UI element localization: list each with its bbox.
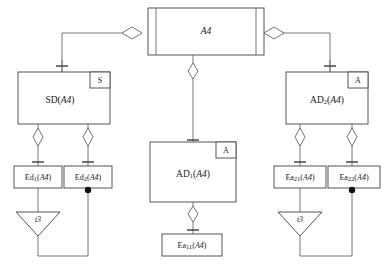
node-ea22[interactable]: Ea22(A4) bbox=[328, 162, 380, 193]
ad2-label-sub: 2 bbox=[324, 98, 327, 105]
edge-root-to-sd bbox=[62, 33, 122, 72]
node-ad2[interactable]: A AD2(A4) bbox=[286, 60, 368, 124]
node-triangle-right[interactable]: t3 bbox=[278, 212, 322, 236]
ea21-label: Ea21(A4) bbox=[285, 173, 315, 183]
ad2-badge-label: A bbox=[355, 76, 361, 85]
ad2-label: AD2(A4) bbox=[310, 95, 344, 106]
node-ed2[interactable]: Ed2(A4) bbox=[64, 162, 112, 193]
ea21-label-arg: A4 bbox=[302, 173, 312, 182]
sd-label: SD(A4) bbox=[45, 95, 74, 106]
diamond-root-left bbox=[122, 27, 142, 39]
ea22-label: Ea22(A4) bbox=[339, 173, 369, 183]
ad1-label: AD1(A4) bbox=[176, 169, 210, 180]
ad1-label-prefix: AD bbox=[176, 169, 190, 179]
diamond-ad1-bottom bbox=[188, 206, 198, 222]
ed2-label-arg: A4 bbox=[89, 173, 99, 182]
ad1-badge-label: A bbox=[223, 146, 229, 155]
diamond-root-bottom bbox=[188, 63, 198, 79]
ed2-label-sub: 2 bbox=[84, 175, 87, 182]
ea21-label-sub: 21 bbox=[294, 175, 301, 182]
diagram-canvas: A4 S SD(A4) A AD1(A4) bbox=[0, 0, 386, 269]
triangle-right-label: t3 bbox=[297, 215, 303, 224]
ed2-label-prefix: Ed bbox=[75, 173, 84, 182]
ea11-label-arg: A4 bbox=[194, 241, 204, 250]
ed2-label: Ed2(A4) bbox=[75, 173, 102, 183]
ad2-label-arg: A4 bbox=[329, 95, 341, 105]
diamond-ad2-left bbox=[295, 128, 305, 146]
ea22-label-sub: 22 bbox=[348, 175, 355, 182]
ad1-label-arg: A4 bbox=[195, 169, 207, 179]
node-sd[interactable]: S SD(A4) bbox=[18, 60, 110, 124]
ea11-label: Ea11(A4) bbox=[178, 241, 207, 251]
ed1-label-prefix: Ed bbox=[25, 173, 34, 182]
sd-label-arg: A4 bbox=[60, 95, 72, 105]
node-ed1[interactable]: Ed1(A4) bbox=[14, 162, 62, 188]
ea22-label-arg: A4 bbox=[356, 173, 366, 182]
ea22-bottom-junction-dot bbox=[349, 187, 355, 193]
ea11-label-sub: 11 bbox=[186, 243, 192, 250]
diamond-ad2-right bbox=[347, 128, 357, 146]
node-root-a4[interactable]: A4 bbox=[148, 8, 264, 55]
diamond-root-right bbox=[264, 27, 284, 39]
ed2-bottom-junction-dot bbox=[85, 187, 91, 193]
triangle-left-label: t3 bbox=[35, 215, 41, 224]
sd-badge-label: S bbox=[98, 76, 102, 85]
node-triangle-left[interactable]: t3 bbox=[16, 212, 60, 236]
ed1-label-sub: 1 bbox=[34, 175, 37, 182]
ed1-label-arg: A4 bbox=[39, 173, 49, 182]
ad2-label-prefix: AD bbox=[310, 95, 324, 105]
root-label: A4 bbox=[200, 26, 212, 36]
ed1-label: Ed1(A4) bbox=[25, 173, 52, 183]
diamond-sd-left bbox=[33, 128, 43, 146]
ad1-label-sub: 1 bbox=[190, 172, 193, 179]
diamond-sd-right bbox=[83, 128, 93, 146]
diagram-svg: A4 S SD(A4) A AD1(A4) bbox=[0, 0, 386, 269]
node-ea21[interactable]: Ea21(A4) bbox=[274, 162, 326, 188]
node-ad1[interactable]: A AD1(A4) bbox=[150, 140, 236, 202]
node-ea11[interactable]: Ea11(A4) bbox=[162, 230, 222, 256]
